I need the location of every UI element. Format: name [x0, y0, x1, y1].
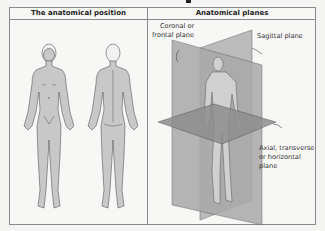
cropped-title-fragment	[186, 0, 191, 3]
column-header-anatomical-planes: Anatomical planes	[147, 8, 316, 20]
coronal-label-line2: frontal plane	[152, 31, 194, 39]
anatomical-planes-diagram-icon	[152, 20, 317, 225]
sagittal-label: Sagittal plane	[257, 32, 303, 40]
anatomy-table: The anatomical position Anatomical plane…	[9, 7, 316, 225]
axial-label-line2: or horizontal	[259, 153, 301, 161]
axial-label-line3: plane	[259, 162, 277, 170]
posterior-view-figure-icon	[78, 30, 148, 220]
column-header-anatomical-position: The anatomical position	[10, 8, 147, 20]
coronal-label-line1: Coronal or	[160, 22, 194, 30]
anterior-view-figure-icon	[14, 30, 84, 220]
axial-label-line1: Axial, transverse	[259, 144, 314, 152]
